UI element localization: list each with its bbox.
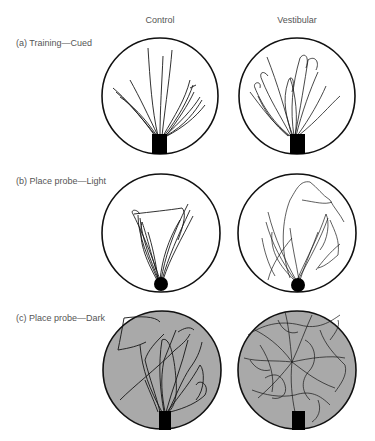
arena-b-vestibular [238, 174, 356, 292]
platform-circle [291, 278, 305, 292]
arena-b-control [102, 174, 220, 292]
arena-a-control [102, 38, 218, 154]
arena-c-control [103, 311, 221, 430]
platform-square [292, 411, 305, 430]
platform-square [290, 134, 305, 154]
arena-a-vestibular [239, 38, 355, 154]
swim-path-figure [0, 0, 375, 441]
platform-square [152, 134, 167, 154]
arena-c-vestibular [238, 311, 356, 430]
platform-circle [154, 277, 168, 291]
platform-square [159, 411, 171, 430]
